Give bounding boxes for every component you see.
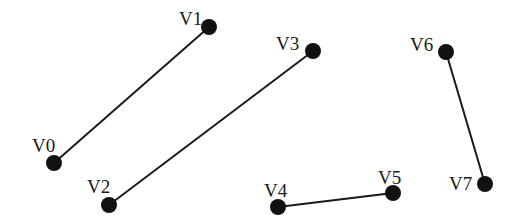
vertex-dot-v4 [270,199,286,215]
vertex-label-v1: V1 [179,8,202,29]
vertex-dot-v7 [477,176,493,192]
vertex-dot-v2 [101,197,117,213]
vertex-label-v4: V4 [264,180,288,201]
vertex-dot-v1 [201,19,217,35]
vertex-dot-v6 [438,44,454,60]
vertex-label-v0: V0 [32,135,55,156]
edge-v0-v1 [54,27,209,163]
edge-v6-v7 [446,52,485,184]
vertex-label-v2: V2 [87,176,110,197]
vertex-label-v6: V6 [410,34,433,55]
line-segment-diagram: V0V1V2V3V4V5V6V7 [0,0,519,222]
edge-v4-v5 [278,193,393,207]
vertex-dot-v3 [305,43,321,59]
vertex-labels-group: V0V1V2V3V4V5V6V7 [32,8,472,201]
diagram-canvas: V0V1V2V3V4V5V6V7 [0,0,519,222]
vertex-label-v3: V3 [276,33,299,54]
vertex-label-v7: V7 [449,173,472,194]
vertex-label-v5: V5 [378,167,401,188]
vertex-dot-v0 [46,155,62,171]
